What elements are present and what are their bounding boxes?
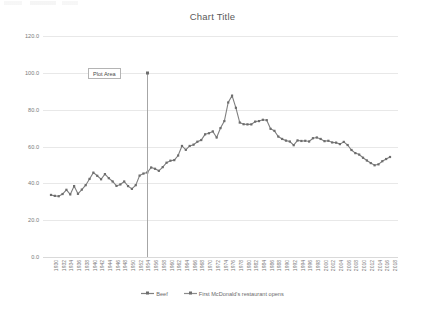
series-beef-point — [165, 162, 167, 164]
series-beef-point — [139, 174, 141, 176]
series-beef-point — [223, 120, 225, 122]
chart-legend[interactable]: BeefFirst McDonald's restaurant opens — [0, 290, 425, 297]
x-axis-tick-label: 1972 — [215, 260, 221, 271]
x-axis-tick-label: 1986 — [269, 260, 275, 271]
legend-marker-icon — [184, 290, 197, 297]
plot-area-tooltip: Plot Area — [88, 68, 121, 79]
x-axis-tick-label: 1994 — [300, 260, 306, 271]
legend-item[interactable]: Beef — [141, 290, 168, 297]
series-beef-point — [300, 140, 302, 142]
series-beef-point — [296, 139, 298, 141]
series-beef-point — [158, 170, 160, 172]
series-beef-point — [231, 95, 233, 97]
series-beef-point — [373, 164, 375, 166]
series-beef-point — [308, 140, 310, 142]
x-axis-tick-label: 1942 — [99, 260, 105, 271]
series-beef-point — [212, 130, 214, 132]
series-beef-point — [173, 159, 175, 161]
series-beef-point — [204, 133, 206, 135]
x-axis-tick-label: 1978 — [238, 260, 244, 271]
series-beef-point — [77, 193, 79, 195]
x-axis-tick-label: 2018 — [392, 260, 398, 271]
series-beef-point — [73, 185, 75, 187]
x-axis-tick-label: 1938 — [84, 260, 90, 271]
x-axis-tick-label: 2014 — [377, 260, 383, 271]
x-axis-tick-label: 1970 — [207, 260, 213, 271]
x-axis-tick-label: 1956 — [153, 260, 159, 271]
mcdonalds-marker-point[interactable] — [146, 71, 149, 74]
series-beef-point — [219, 127, 221, 129]
x-axis-tick-label: 1974 — [223, 260, 229, 271]
x-axis-tick-label: 1952 — [138, 260, 144, 271]
series-beef-point — [269, 128, 271, 130]
chart-container[interactable]: Chart Title 0.020.040.060.080.0100.0120.… — [0, 0, 425, 315]
legend-item-label: First McDonald's restaurant opens — [199, 291, 284, 297]
y-axis-tick-label: 20.0 — [28, 217, 39, 223]
series-beef-point — [250, 123, 252, 125]
x-axis-tick-label: 1932 — [61, 260, 67, 271]
series-beef-point — [366, 159, 368, 161]
x-axis-tick-label: 1948 — [122, 260, 128, 271]
series-beef-point — [100, 178, 102, 180]
window-chrome-artifact — [4, 1, 78, 5]
x-axis-tick-label: 1996 — [307, 260, 313, 271]
x-axis-tick-label: 1958 — [161, 260, 167, 271]
series-beef-point — [115, 185, 117, 187]
x-axis-tick-label: 2000 — [323, 260, 329, 271]
x-axis-tick-label: 1984 — [261, 260, 267, 271]
series-beef-point — [150, 166, 152, 168]
series-beef-point — [239, 121, 241, 123]
series-beef-point — [258, 120, 260, 122]
x-axis-tick-label: 1980 — [246, 260, 252, 271]
series-beef-point — [196, 141, 198, 143]
series-beef-point — [293, 144, 295, 146]
series-beef-point — [65, 189, 67, 191]
series-beef-point — [216, 136, 218, 138]
x-axis-tick-label: 1998 — [315, 260, 321, 271]
series-beef-point — [246, 123, 248, 125]
series-beef-point — [96, 175, 98, 177]
x-axis-tick-label: 1934 — [68, 260, 74, 271]
series-beef-point — [243, 123, 245, 125]
series-beef-point — [358, 154, 360, 156]
series-beef-point — [235, 107, 237, 109]
series-beef-point — [227, 101, 229, 103]
series-beef-point — [331, 141, 333, 143]
series-beef-point — [162, 166, 164, 168]
y-axis-tick-label: 80.0 — [28, 107, 39, 113]
legend-item-label: Beef — [156, 291, 168, 297]
series-beef-point — [50, 194, 52, 196]
series-beef-point — [189, 145, 191, 147]
legend-marker-icon — [141, 290, 154, 297]
series-beef-point — [92, 172, 94, 174]
series-beef-point — [127, 185, 129, 187]
series-beef-point — [343, 141, 345, 143]
series-beef-point — [354, 152, 356, 154]
x-axis-tick-label: 2004 — [338, 260, 344, 271]
series-beef-point — [85, 184, 87, 186]
series-beef-point — [339, 143, 341, 145]
series-beef-point — [289, 140, 291, 142]
series-beef-point — [131, 188, 133, 190]
x-axis-tick-label: 1966 — [192, 260, 198, 271]
series-beef-point — [112, 180, 114, 182]
y-axis-tick-label: 0.0 — [31, 254, 39, 260]
x-axis-tick-label: 1946 — [115, 260, 121, 271]
series-beef-point — [335, 142, 337, 144]
legend-item[interactable]: First McDonald's restaurant opens — [184, 290, 284, 297]
series-beef-point — [54, 195, 56, 197]
series-beef-point — [169, 160, 171, 162]
series-beef-line — [51, 96, 390, 197]
chart-title[interactable]: Chart Title — [0, 11, 425, 22]
series-beef-point — [185, 149, 187, 151]
series-beef-point — [119, 183, 121, 185]
series-beef-point — [181, 145, 183, 147]
x-axis-tick-label: 2006 — [346, 260, 352, 271]
series-beef-point — [273, 130, 275, 132]
series-beef-point — [327, 140, 329, 142]
series-beef-point — [81, 188, 83, 190]
series-beef-point — [108, 177, 110, 179]
series-beef-point — [88, 178, 90, 180]
mcdonalds-marker-line[interactable] — [147, 73, 148, 257]
y-axis-tick-label: 40.0 — [28, 180, 39, 186]
